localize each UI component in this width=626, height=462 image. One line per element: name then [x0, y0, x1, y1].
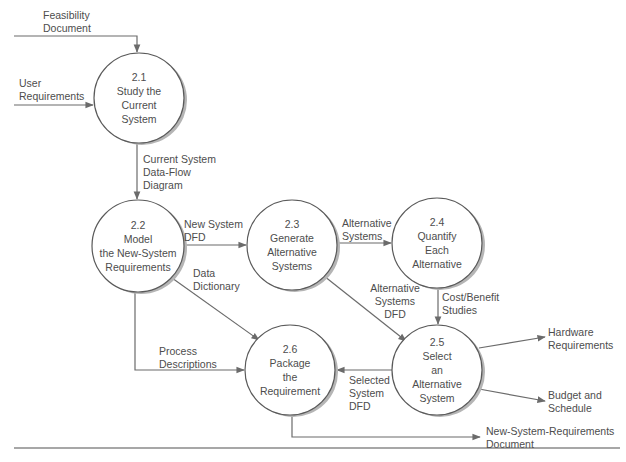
flow-hardware-requirements — [479, 337, 545, 348]
process-name-line: Each — [392, 243, 482, 257]
label-current-system-dfd: Current System Data-Flow Diagram — [143, 153, 216, 192]
process-name-line: the — [245, 370, 335, 384]
label-cost-benefit-studies: Cost/Benefit Studies — [442, 291, 499, 317]
process-name-line: Select — [392, 349, 482, 363]
process-name-line: Study the — [94, 84, 184, 98]
process-name-line: Quantify — [392, 229, 482, 243]
process-name-line: Requirement — [245, 384, 335, 398]
label-budget-and-schedule: Budget and Schedule — [548, 389, 602, 415]
process-number: 2.3 — [247, 217, 337, 231]
process-2-2-label: 2.2Modelthe New-SystemRequirements — [93, 218, 183, 274]
label-selected-system-dfd: Selected System DFD — [349, 374, 390, 413]
label-new-system-requirements-document: New-System-Requirements Document — [486, 425, 614, 451]
process-name-line: Systems — [247, 259, 337, 273]
label-new-system-dfd: New System DFD — [184, 218, 243, 244]
process-number: 2.4 — [392, 215, 482, 229]
label-alternative-systems-dfd: Alternative Systems DFD — [364, 282, 426, 321]
label-process-descriptions: Process Descriptions — [159, 345, 217, 371]
flow-new-system-requirements-document — [292, 415, 480, 437]
process-name-line: Alternative — [392, 377, 482, 391]
process-name-line: an — [392, 363, 482, 377]
process-2-3-label: 2.3GenerateAlternativeSystems — [247, 217, 337, 273]
label-hardware-requirements: Hardware Requirements — [548, 326, 613, 352]
process-name-line: Model — [93, 232, 183, 246]
process-name-line: Generate — [247, 231, 337, 245]
process-name-line: Package — [245, 356, 335, 370]
process-name-line: Alternative — [392, 257, 482, 271]
flow-feasibility-document — [14, 36, 137, 52]
process-name-line: Current — [94, 98, 184, 112]
process-number: 2.1 — [94, 70, 184, 84]
flow-budget-and-schedule — [479, 389, 545, 401]
process-name-line: the New-System — [93, 246, 183, 260]
label-data-dictionary: Data Dictionary — [193, 267, 240, 293]
label-feasibility-document: Feasibility Document — [43, 9, 91, 35]
process-name-line: Alternative — [247, 245, 337, 259]
process-number: 2.2 — [93, 218, 183, 232]
label-alternative-systems: Alternative Systems — [342, 217, 392, 243]
process-name-line: System — [94, 112, 184, 126]
process-name-line: System — [392, 391, 482, 405]
process-2-1-label: 2.1Study theCurrentSystem — [94, 70, 184, 126]
label-user-requirements: User Requirements — [19, 77, 84, 103]
process-number: 2.5 — [392, 335, 482, 349]
process-2-5-label: 2.5SelectanAlternativeSystem — [392, 335, 482, 405]
process-2-6-label: 2.6PackagetheRequirement — [245, 342, 335, 398]
process-number: 2.6 — [245, 342, 335, 356]
process-2-4-label: 2.4QuantifyEachAlternative — [392, 215, 482, 271]
process-name-line: Requirements — [93, 260, 183, 274]
